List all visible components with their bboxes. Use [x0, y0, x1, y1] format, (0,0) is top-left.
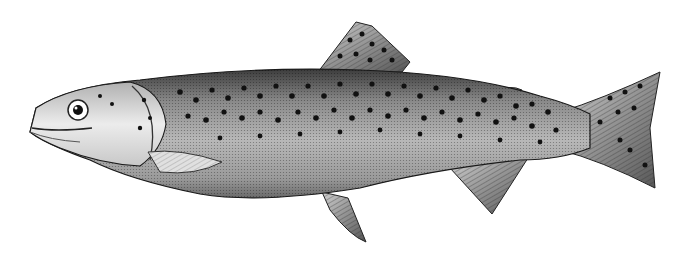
trout-drawing [0, 0, 688, 266]
fish-head [30, 82, 166, 166]
fish-illustration [0, 0, 688, 266]
pelvic-fin [322, 192, 366, 242]
dorsal-fin [318, 22, 410, 72]
